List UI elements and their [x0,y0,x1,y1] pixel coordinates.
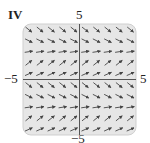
direction-field-plot [0,0,150,143]
